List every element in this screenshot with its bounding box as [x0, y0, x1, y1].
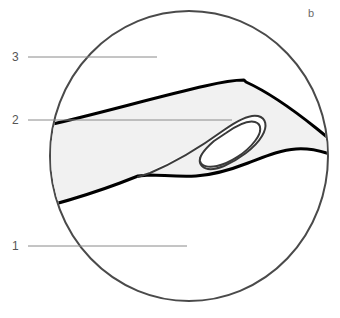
- callout-label-1: 1: [12, 240, 19, 252]
- callout-label-3: 3: [12, 51, 19, 63]
- callout-label-2: 2: [12, 114, 19, 126]
- figure-panel: 3 2 1 b: [0, 0, 340, 318]
- figure-canvas: [0, 0, 340, 318]
- panel-letter: b: [308, 8, 314, 19]
